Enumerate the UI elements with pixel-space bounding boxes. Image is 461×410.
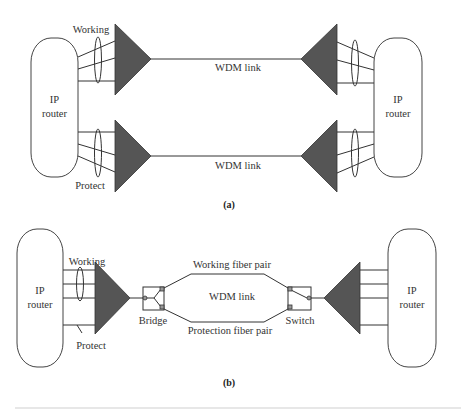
router-label-line2: router	[27, 299, 53, 310]
wdm-mux-triangle	[115, 24, 151, 95]
caption-b: (b)	[223, 377, 235, 389]
tributary-line	[78, 41, 115, 57]
bridge-port	[160, 305, 164, 309]
bridge-label: Bridge	[139, 315, 168, 326]
tributary-line	[337, 144, 374, 155]
router-label-line1: IP	[393, 94, 402, 105]
caption-a: (a)	[223, 199, 235, 211]
wdm-mux-triangle	[324, 262, 360, 334]
bundle-ellipse	[95, 129, 102, 177]
wdm-link-label: WDM link	[215, 62, 262, 73]
working-bundle-left-a	[78, 37, 115, 83]
bundle-ellipse	[352, 40, 359, 86]
tributaries-right-b	[360, 270, 388, 325]
working-label: Working	[73, 24, 110, 35]
router-shape	[17, 229, 63, 367]
right-ip-router-b: IP router	[388, 229, 436, 367]
diagram-a: IP router IP router Working WDM link	[31, 24, 422, 211]
protect-pointer-line	[77, 325, 82, 333]
wdm-link-label: WDM link	[215, 160, 262, 171]
protection-fiber-pair-line	[164, 309, 288, 322]
router-shape	[388, 229, 436, 367]
working-bundle-right-a	[337, 40, 374, 86]
router-label-line1: IP	[407, 285, 416, 296]
wdm-mux-triangle	[115, 120, 151, 192]
protect-label: Protect	[75, 180, 105, 191]
router-label-line1: IP	[35, 285, 44, 296]
wdm-mux-triangle	[301, 24, 337, 95]
tributary-line	[337, 42, 374, 58]
wdm-link-label: WDM link	[209, 291, 256, 302]
bridge-port	[160, 287, 164, 291]
left-ip-router-b: IP router	[17, 229, 63, 367]
router-label-line2: router	[42, 108, 68, 119]
right-ip-router-a: IP router	[374, 38, 422, 177]
switch-port	[288, 287, 292, 291]
bridge-port	[143, 296, 147, 300]
protect-bundle-left-a	[78, 129, 115, 177]
switch-port	[288, 305, 292, 309]
working-label: Working	[69, 256, 106, 267]
working-fiber-pair-label: Working fiber pair	[193, 259, 271, 270]
switch-port	[307, 296, 311, 300]
protect-bundle-right-a	[337, 129, 374, 177]
bundle-ellipse	[352, 129, 359, 177]
tributaries-left-b	[63, 267, 95, 333]
switch	[288, 287, 311, 310]
tributary-line	[337, 60, 374, 70]
bridge	[143, 287, 164, 310]
diagram-b: IP router Working Protect Bridge	[17, 229, 436, 389]
tributary-line	[78, 156, 115, 172]
wdm-mux-triangle	[301, 120, 337, 192]
router-label-line2: router	[385, 108, 411, 119]
wdm-mux-triangle	[95, 262, 130, 334]
switch-label: Switch	[285, 315, 315, 326]
left-ip-router-a: IP router	[31, 38, 78, 177]
router-label-line2: router	[399, 299, 425, 310]
router-label-line1: IP	[50, 94, 59, 105]
protection-fiber-pair-label: Protection fiber pair	[188, 325, 273, 336]
tributary-line	[78, 144, 115, 155]
bundle-ellipse	[95, 37, 102, 83]
tributary-line	[78, 58, 115, 69]
tributary-line	[337, 157, 374, 173]
working-fiber-pair-line	[164, 274, 288, 288]
protect-label: Protect	[76, 340, 106, 351]
protection-diagram: IP router IP router Working WDM link	[0, 0, 461, 410]
